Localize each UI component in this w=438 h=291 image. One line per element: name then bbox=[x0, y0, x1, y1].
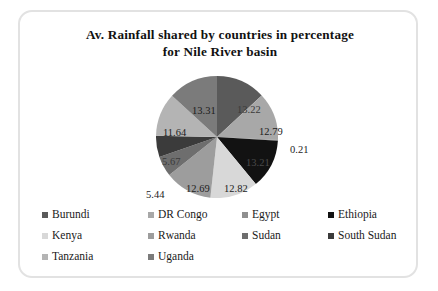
legend-row: KenyaRwandaSudanSouth Sudan bbox=[20, 229, 420, 250]
legend-label: Rwanda bbox=[158, 229, 196, 242]
slice-value-label-dr-congo: 12.79 bbox=[259, 126, 283, 137]
legend-item-south-sudan[interactable]: South Sudan bbox=[328, 229, 396, 242]
legend-swatch-icon-egypt bbox=[242, 212, 248, 218]
legend-label: Sudan bbox=[252, 229, 281, 242]
legend-swatch-icon-tanzania bbox=[42, 254, 48, 260]
slice-value-label-egypt: 0.21 bbox=[290, 144, 308, 155]
legend-item-tanzania[interactable]: Tanzania bbox=[42, 250, 93, 263]
legend-label: Kenya bbox=[52, 229, 82, 242]
legend-row: BurundiDR CongoEgyptEthiopia bbox=[20, 208, 420, 229]
slice-value-label-kenya: 12.82 bbox=[224, 183, 248, 194]
legend-item-uganda[interactable]: Uganda bbox=[148, 250, 194, 263]
legend-label: DR Congo bbox=[158, 208, 208, 221]
legend-row: TanzaniaUganda bbox=[20, 250, 420, 271]
legend-swatch-icon-sudan bbox=[242, 233, 248, 239]
slice-value-label-south-sudan: 5.67 bbox=[162, 156, 180, 167]
legend-label: Tanzania bbox=[52, 250, 93, 263]
legend-label: Ethiopia bbox=[338, 208, 377, 221]
legend-item-ethiopia[interactable]: Ethiopia bbox=[328, 208, 377, 221]
legend-swatch-icon-dr-congo bbox=[148, 212, 154, 218]
legend-item-kenya[interactable]: Kenya bbox=[42, 229, 82, 242]
chart-figure-frame: Av. Rainfall shared by countries in perc… bbox=[18, 10, 418, 278]
legend-swatch-icon-rwanda bbox=[148, 233, 154, 239]
legend-label: Burundi bbox=[52, 208, 90, 221]
legend-item-egypt[interactable]: Egypt bbox=[242, 208, 279, 221]
legend-swatch-icon-ethiopia bbox=[328, 212, 334, 218]
slice-value-label-burundi: 13.22 bbox=[237, 104, 261, 115]
slice-value-label-rwanda: 12.69 bbox=[186, 183, 210, 194]
slice-value-label-uganda: 13.31 bbox=[192, 105, 216, 116]
legend-label: South Sudan bbox=[338, 229, 396, 242]
legend-label: Uganda bbox=[158, 250, 194, 263]
legend-swatch-icon-uganda bbox=[148, 254, 154, 260]
legend-swatch-icon-kenya bbox=[42, 233, 48, 239]
legend-item-rwanda[interactable]: Rwanda bbox=[148, 229, 196, 242]
legend-label: Egypt bbox=[252, 208, 279, 221]
chart-legend: BurundiDR CongoEgyptEthiopiaKenyaRwandaS… bbox=[20, 208, 420, 274]
legend-item-sudan[interactable]: Sudan bbox=[242, 229, 281, 242]
legend-item-burundi[interactable]: Burundi bbox=[42, 208, 90, 221]
chart-title-line-1: Av. Rainfall shared by countries in perc… bbox=[20, 26, 420, 43]
legend-swatch-icon-burundi bbox=[42, 212, 48, 218]
chart-title-line-2: for Nile River basin bbox=[20, 43, 420, 60]
slice-value-label-ethiopia: 13.21 bbox=[246, 157, 270, 168]
slice-value-label-sudan: 5.44 bbox=[146, 189, 164, 200]
legend-swatch-icon-south-sudan bbox=[328, 233, 334, 239]
pie-chart-area: 13.2212.790.2113.2112.8212.695.445.6711.… bbox=[20, 74, 420, 202]
chart-title: Av. Rainfall shared by countries in perc… bbox=[20, 26, 420, 60]
legend-item-dr-congo[interactable]: DR Congo bbox=[148, 208, 208, 221]
slice-value-label-tanzania: 11.64 bbox=[163, 127, 186, 138]
